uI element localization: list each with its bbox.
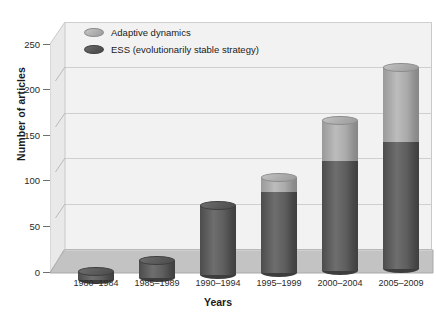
legend-label-ess: ESS (evolutionarily stable strategy) — [111, 44, 259, 55]
ytick-mark-250 — [43, 44, 50, 45]
ytick-label-50: 50 — [6, 221, 40, 232]
gridline-50 — [64, 204, 432, 205]
xtick-label-5: 2000–2004 — [309, 278, 371, 288]
plot-left-wall — [50, 21, 66, 273]
gridconn-50 — [50, 204, 66, 218]
chart-container: 0 50 100 150 200 250 — [0, 0, 436, 316]
ytick-label-0: 0 — [6, 267, 40, 278]
bar-segment-adaptive[interactable] — [383, 68, 419, 142]
gridconn-0 — [50, 250, 66, 264]
bar-group-4[interactable] — [261, 165, 297, 273]
chart-legend: Adaptive dynamics ESS (evolutionarily st… — [84, 24, 259, 58]
bar-group-3[interactable] — [200, 193, 236, 275]
legend-swatch-icon-adaptive — [84, 28, 104, 37]
bar-cap-adaptive — [383, 63, 419, 72]
gridline-150 — [64, 113, 432, 114]
xtick-label-4: 1995–1999 — [248, 278, 310, 288]
legend-label-adaptive: Adaptive dynamics — [111, 27, 191, 38]
bar-segment-ess[interactable] — [261, 192, 297, 273]
legend-swatch-icon-ess — [84, 45, 104, 54]
ytick-mark-150 — [43, 135, 50, 136]
bar-segment-ess[interactable] — [200, 206, 236, 275]
legend-item-ess[interactable]: ESS (evolutionarily stable strategy) — [84, 41, 259, 58]
bar-segment-adaptive[interactable] — [322, 121, 358, 161]
gridconn-200 — [50, 67, 66, 81]
x-axis-title: Years — [0, 296, 436, 308]
legend-item-adaptive-dynamics[interactable]: Adaptive dynamics — [84, 24, 259, 41]
ytick-mark-100 — [43, 180, 50, 181]
bar-cap-ess — [200, 201, 236, 210]
ytick-mark-200 — [43, 89, 50, 90]
gridline-100 — [64, 158, 432, 159]
bar-segment-ess[interactable] — [322, 161, 358, 271]
xtick-label-6: 2005–2009 — [370, 278, 432, 288]
bar-cap-adaptive — [261, 173, 297, 182]
xtick-label-1: 1980–1984 — [65, 278, 127, 288]
gridline-200 — [64, 67, 432, 68]
gridconn-150 — [50, 113, 66, 127]
gridline-0 — [64, 250, 432, 251]
xtick-label-3: 1990–1994 — [187, 278, 249, 288]
bar-segment-ess[interactable] — [383, 142, 419, 269]
ytick-mark-0 — [43, 272, 50, 273]
bar-cap-adaptive — [322, 116, 358, 125]
bar-group-5[interactable] — [322, 111, 358, 271]
bar-group-2[interactable] — [139, 250, 175, 278]
xtick-label-2: 1985–1989 — [126, 278, 188, 288]
ytick-mark-50 — [43, 226, 50, 227]
bar-cap-ess — [78, 267, 114, 276]
y-axis-title: Number of articles — [15, 49, 27, 179]
gridconn-100 — [50, 158, 66, 172]
gridline-250 — [64, 22, 432, 23]
bar-cap-ess — [139, 256, 175, 265]
bar-group-6[interactable] — [383, 57, 419, 269]
